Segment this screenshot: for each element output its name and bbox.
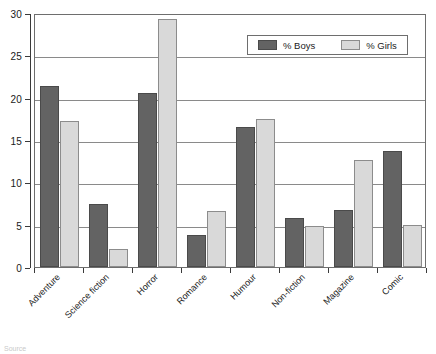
x-axis-label-magazine: Magazine (321, 272, 356, 307)
bar-romance-boys (187, 235, 206, 267)
y-tick-mark (25, 268, 30, 269)
legend-item-boys: % Boys (258, 40, 315, 51)
x-axis-label-comic: Comic (379, 272, 404, 297)
legend-swatch-boys (258, 40, 277, 50)
x-axis-labels: AdventureScience fictionHorrorRomanceHum… (34, 272, 426, 342)
y-tick-label-30: 30 (10, 9, 22, 20)
legend-swatch-girls (341, 40, 360, 50)
x-axis-label-science-fiction: Science fiction (62, 272, 110, 320)
bar-magazine-boys (334, 210, 353, 267)
plot-wrapper: % Boys% Girls (34, 14, 426, 268)
x-tick-mark (426, 268, 427, 273)
legend-label: % Boys (283, 40, 315, 51)
y-tick-label-5: 5 (16, 220, 22, 231)
x-axis-label-humour: Humour (228, 272, 258, 302)
bar-chart: 051015202530 % Boys% Girls AdventureScie… (0, 0, 436, 354)
y-tick-label-15: 15 (10, 136, 22, 147)
bar-adventure-girls (60, 121, 79, 267)
x-axis-label-adventure: Adventure (25, 272, 61, 308)
bar-non-fiction-boys (285, 218, 304, 267)
bar-humour-girls (256, 119, 275, 267)
bar-romance-girls (207, 211, 226, 267)
legend: % Boys% Girls (247, 35, 408, 55)
x-axis-label-horror: Horror (134, 272, 159, 297)
y-axis-line (30, 14, 31, 268)
bar-horror-boys (138, 93, 157, 267)
bar-non-fiction-girls (305, 226, 324, 267)
bar-comic-boys (383, 151, 402, 267)
x-axis-label-non-fiction: Non-fiction (269, 272, 306, 309)
x-axis-label-romance: Romance (174, 272, 208, 306)
bar-science-fiction-girls (109, 249, 128, 267)
footer-caption: Source (4, 345, 26, 352)
y-tick-label-0: 0 (16, 263, 22, 274)
y-tick-label-25: 25 (10, 51, 22, 62)
bar-horror-girls (158, 19, 177, 267)
bar-humour-boys (236, 127, 255, 267)
bar-magazine-girls (354, 160, 373, 267)
y-tick-label-20: 20 (10, 93, 22, 104)
legend-item-girls: % Girls (341, 40, 397, 51)
bar-adventure-boys (40, 86, 59, 267)
bar-comic-girls (403, 225, 422, 267)
y-axis: 051015202530 (0, 14, 30, 268)
legend-label: % Girls (366, 40, 397, 51)
bar-science-fiction-boys (89, 204, 108, 268)
y-tick-label-10: 10 (10, 178, 22, 189)
